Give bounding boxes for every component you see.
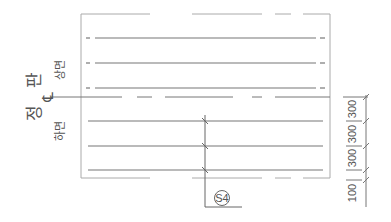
dimension-label: 300 <box>345 97 359 121</box>
drawing-canvas <box>0 0 391 222</box>
upper-face-label: 상면 <box>54 55 68 85</box>
upper-rebar-lines <box>86 38 325 88</box>
lower-face-label: 하면 <box>54 116 68 146</box>
section-tag-label: S4 <box>214 191 230 205</box>
dimension-label: 300 <box>345 122 359 146</box>
dimension-label: 300 <box>345 146 359 170</box>
dimension-label: 100 <box>345 181 359 205</box>
centerline-symbol-icon: ℄ <box>39 88 57 106</box>
